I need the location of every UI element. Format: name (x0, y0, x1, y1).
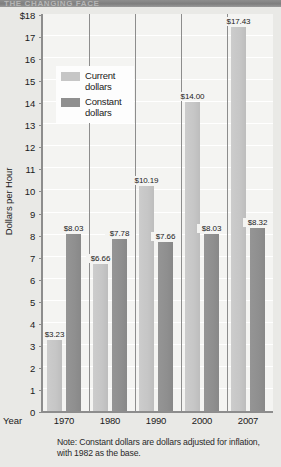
group-separator (227, 14, 228, 411)
y-axis-tick-label: 2 (1, 364, 39, 373)
legend-label-current-line2: dollars (85, 81, 112, 92)
x-axis-ticks: 19701980199020002007 (41, 415, 273, 431)
bar-1990-constant (158, 242, 173, 411)
bar-value-label: $10.19 (132, 176, 162, 185)
chart-title-text: THE CHANGING FACE (0, 0, 281, 7)
bar-1980-constant (112, 239, 127, 411)
bar-1980-current (93, 264, 108, 411)
legend-label-current: Currentdollars (85, 71, 115, 92)
legend-item-constant: Constantdollars (61, 97, 130, 118)
y-axis-tick-label: 13 (1, 121, 39, 130)
group-separator (135, 14, 136, 411)
bar-2000-constant (204, 234, 219, 411)
y-axis-tick-label: 7 (1, 254, 39, 263)
y-axis-tick-label: 1 (1, 386, 39, 395)
x-axis-tick-2000: 2000 (179, 415, 225, 427)
legend-label-constant: Constantdollars (85, 97, 121, 118)
bar-value-label: $14.00 (178, 92, 208, 101)
y-axis-tick-label: 14 (1, 99, 39, 108)
bar-2007-constant (250, 228, 265, 412)
bar-value-label: $7.66 (151, 232, 181, 241)
bar-value-label: $8.32 (243, 218, 273, 227)
legend-item-current: Currentdollars (61, 71, 130, 92)
legend-label-current-line1: Current (85, 70, 115, 81)
bar-value-label: $8.03 (59, 224, 89, 233)
chart-legend: Currentdollars Constantdollars (56, 66, 134, 123)
x-axis-tick-2007: 2007 (225, 415, 271, 427)
legend-label-constant-line1: Constant (85, 96, 121, 107)
y-axis-tick-label: 4 (1, 320, 39, 329)
bar-value-label: $17.43 (224, 17, 254, 26)
bar-value-label: $7.78 (105, 229, 135, 238)
y-axis-title: Dollars per Hour (3, 157, 14, 247)
y-axis-tick-label: 5 (1, 298, 39, 307)
y-axis-tick-label: 17 (1, 33, 39, 42)
y-axis-tick-label: 6 (1, 276, 39, 285)
x-axis-tick-1970: 1970 (41, 415, 87, 427)
y-axis-tick-label: 15 (1, 77, 39, 86)
x-axis-title: Year (3, 415, 22, 427)
group-separator (181, 14, 182, 411)
chart-note-line2: with 1982 as the base. (57, 448, 277, 459)
y-axis-tick-label: 3 (1, 342, 39, 351)
chart-note-line1: Note: Constant dollars are dollars adjus… (57, 437, 277, 448)
chart-figure: THE CHANGING FACE $181716151413121110987… (0, 0, 281, 467)
legend-swatch-current-icon (61, 72, 80, 81)
chart-title-strip: THE CHANGING FACE (0, 0, 281, 7)
bar-value-label: $6.66 (86, 254, 116, 263)
y-axis-tick-label: 16 (1, 55, 39, 64)
bar-1970-constant (66, 234, 81, 411)
y-axis-tick-label: 12 (1, 143, 39, 152)
x-axis-tick-1980: 1980 (87, 415, 133, 427)
x-axis-tick-1990: 1990 (133, 415, 179, 427)
chart-note: Note: Constant dollars are dollars adjus… (57, 437, 277, 459)
bar-1990-current (139, 186, 154, 411)
bar-1970-current (47, 340, 62, 411)
legend-swatch-constant-icon (61, 98, 80, 107)
bar-2000-current (185, 102, 200, 411)
bar-value-label: $8.03 (197, 224, 227, 233)
y-axis-tick-label: $18 (1, 11, 39, 20)
legend-label-constant-line2: dollars (85, 107, 112, 118)
